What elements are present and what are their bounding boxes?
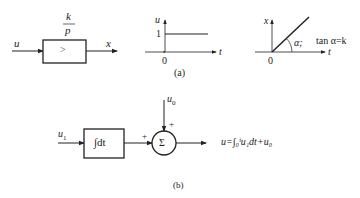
block-gain-numerator: k: [66, 10, 71, 22]
plus-left: +: [142, 131, 147, 141]
plus-top: +: [169, 119, 174, 129]
b-input-sub: 1: [63, 134, 67, 142]
step-level-label: 1: [156, 28, 161, 39]
sum-symbol: Σ: [159, 137, 165, 148]
diagram-canvas: [0, 0, 360, 198]
caption-b: (b): [173, 180, 184, 190]
block-input-label: u: [14, 37, 20, 49]
ramp-origin-label: 0: [268, 55, 273, 66]
step-origin-label: 0: [162, 55, 167, 66]
b-input-label: u1: [58, 128, 67, 142]
ramp-relation: tan α=k: [316, 35, 347, 46]
block-symbol: >: [60, 44, 66, 55]
integrator-label: ∫dt: [94, 136, 106, 148]
output-equation: u=∫₀ᵗu₁dt+u₀: [221, 136, 272, 147]
ramp-y-label: x: [264, 15, 268, 26]
top-input-sub: 0: [172, 99, 176, 107]
block-gain-denominator: p: [65, 24, 71, 36]
block-output-label: x: [106, 37, 111, 49]
top-input-label: u0: [167, 93, 176, 107]
caption-a: (a): [174, 67, 185, 78]
ramp-x-label: t: [328, 46, 331, 57]
ramp-angle-label: α;: [294, 37, 303, 48]
integrator-sum-diagram: [58, 100, 206, 158]
step-y-label: u: [155, 14, 160, 25]
step-x-label: t: [219, 46, 222, 57]
